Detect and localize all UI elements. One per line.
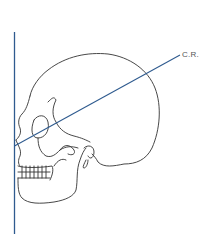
skull-outline	[16, 54, 159, 204]
central-ray-line	[15, 55, 181, 146]
skull-diagram	[0, 0, 210, 247]
central-ray-label: C.R.	[182, 50, 199, 59]
